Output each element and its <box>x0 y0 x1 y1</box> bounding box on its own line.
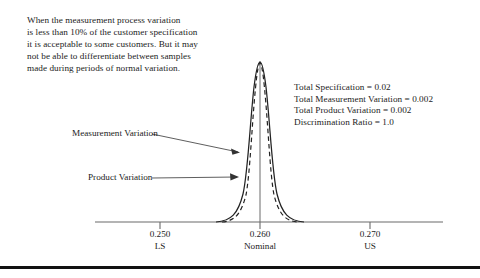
axis-tick-ls-name: LS <box>120 240 200 252</box>
axis-tick-us: 0.270 US <box>330 228 410 252</box>
axis-tick-us-value: 0.270 <box>330 228 410 240</box>
axis-tick-nominal-value: 0.260 <box>220 228 300 240</box>
product-variation-label: Product Variation <box>88 172 152 183</box>
product-variation-arrowhead <box>230 173 239 180</box>
axis-tick-us-name: US <box>330 240 410 252</box>
axis-tick-ls: 0.250 LS <box>120 228 200 252</box>
measurement-variation-leader-line <box>152 134 238 152</box>
measurement-variation-arrowhead <box>231 149 240 155</box>
axis-tick-nominal-name: Nominal <box>220 240 300 252</box>
product-variation-leader-line <box>152 177 237 178</box>
measurement-variation-label: Measurement Variation <box>72 128 158 139</box>
figure-canvas: When the measurement process variation i… <box>0 0 480 278</box>
bottom-rule <box>0 266 480 269</box>
axis-tick-ls-value: 0.250 <box>120 228 200 240</box>
axis-tick-nominal: 0.260 Nominal <box>220 228 300 252</box>
